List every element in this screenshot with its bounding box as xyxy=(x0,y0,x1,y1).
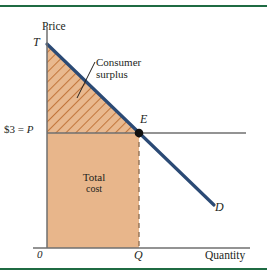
plot-canvas xyxy=(0,0,267,276)
total-cost-label: Total cost xyxy=(66,172,122,195)
intercept-label-t: T xyxy=(33,36,40,49)
quantity-label-q: Q xyxy=(134,249,143,262)
y-axis-label: Price xyxy=(42,20,66,32)
price-value: $3 xyxy=(4,123,15,135)
origin-label: 0 xyxy=(37,249,43,261)
price-symbol: P xyxy=(27,123,34,135)
consumer-surplus-label: Consumer surplus xyxy=(96,57,141,81)
total-cost-label-line2: cost xyxy=(66,184,122,195)
price-level-label: $3 = P xyxy=(4,124,33,136)
economics-diagram: Price Quantity 0 T E D Q $3 = P Consumer… xyxy=(0,0,267,276)
x-axis-label: Quantity xyxy=(205,249,245,261)
equilibrium-label-e: E xyxy=(140,113,147,126)
price-equals-sign: = xyxy=(18,123,24,135)
demand-curve-label-d: D xyxy=(215,201,224,214)
equilibrium-point xyxy=(135,129,144,138)
consumer-surplus-label-line2: surplus xyxy=(96,69,141,81)
